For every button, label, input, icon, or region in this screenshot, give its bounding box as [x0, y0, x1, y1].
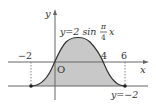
x-axis-label: x — [140, 64, 146, 75]
equation-frac-num: π — [100, 22, 107, 31]
origin-label: O — [57, 64, 65, 75]
tick-neg2: −2 — [18, 50, 32, 61]
y-axis-arrow-icon — [53, 9, 57, 15]
equation-prefix: y=2 sin — [59, 26, 96, 37]
endpoint-right — [123, 84, 127, 88]
endpoint-left — [29, 84, 33, 88]
line-label: y=−2 — [110, 89, 138, 100]
equation-var: x — [109, 26, 115, 37]
y-axis-label: y — [44, 8, 51, 19]
tick-4: 4 — [101, 50, 107, 61]
tick-6: 6 — [121, 50, 127, 61]
graph: y x O −2 4 6 y=−2 y=2 sin π 4 x — [0, 0, 156, 111]
equation-frac-den: 4 — [101, 33, 106, 42]
